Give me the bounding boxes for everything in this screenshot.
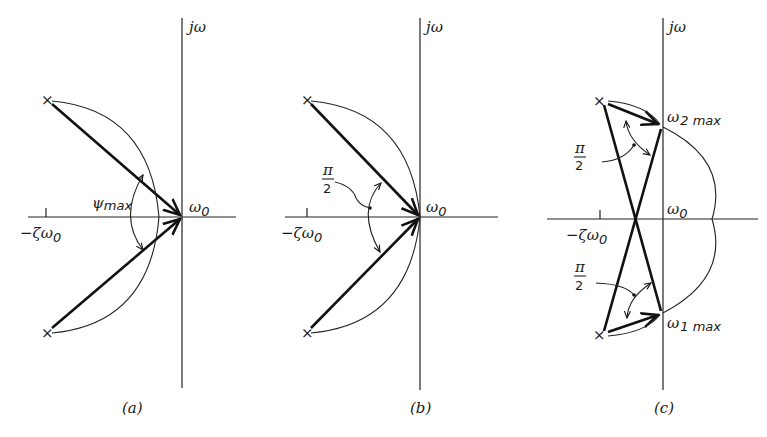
pi-label: π [322,161,334,179]
pole-upper: × [41,91,54,109]
angle-arc-lower [627,283,651,318]
line-upper-pole-to-omega1 [604,105,661,311]
s-plane-figure: jω ω0 −ζω0 × × ψmax (a) jω ω0 −ζω0 × × π… [0,0,767,437]
zeta-omega0-label: −ζω0 [281,224,322,245]
panel-a: jω ω0 −ζω0 × × ψmax (a) [20,18,236,417]
two-label-upper: 2 [575,158,583,173]
panel-b: jω ω0 −ζω0 × × π 2 (b) [281,18,498,417]
pi-label-lower: π [574,258,586,276]
zeta-omega0-label: −ζω0 [566,226,607,247]
angle-arc-upper [626,121,650,155]
vector-upper [311,104,418,215]
omega0-label: ω0 [189,198,210,219]
caption-b: (b) [410,399,431,417]
caption-c: (c) [654,399,674,417]
pi-label-upper: π [574,139,586,157]
vector-lower [311,219,418,328]
zeta-omega0-label: −ζω0 [20,224,61,245]
omega2max-label: ω2 max [667,108,721,128]
locus-circle [663,127,716,313]
two-label: 2 [323,181,331,196]
omega1max-label: ω1 max [667,314,721,334]
psi-max-label: ψmax [92,194,132,213]
caption-a: (a) [122,399,143,417]
leader-line [335,182,370,208]
two-label-lower: 2 [575,278,583,293]
vector-lower [52,219,180,328]
imag-axis-label: jω [423,18,443,36]
panel-c: jω ω0 −ζω0 × × π 2 π 2 ω2 max ω1 max (c) [547,18,758,417]
omega0-label: ω0 [667,200,688,221]
angle-arc [131,175,144,250]
imag-axis-label: jω [666,18,686,36]
imag-axis-label: jω [186,18,206,36]
omega0-label: ω0 [426,198,447,219]
